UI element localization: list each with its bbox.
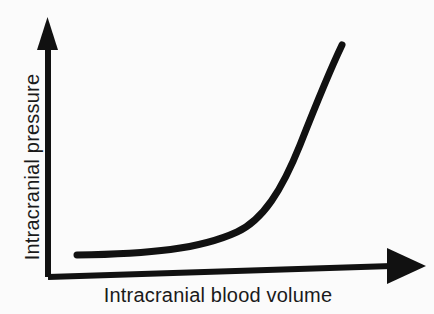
x-axis-arrow-right-icon: [387, 248, 426, 284]
chart-canvas: [0, 0, 434, 314]
y-axis-arrow-up-icon: [37, 17, 58, 50]
x-axis-label: Intracranial blood volume: [48, 284, 388, 306]
y-axis-label: Intracranial pressure: [21, 59, 43, 275]
chart-figure: Intracranial blood volume Intracranial p…: [0, 0, 434, 314]
data-curve-intracranial-pressure: [77, 45, 342, 255]
x-axis-line: [48, 266, 392, 277]
